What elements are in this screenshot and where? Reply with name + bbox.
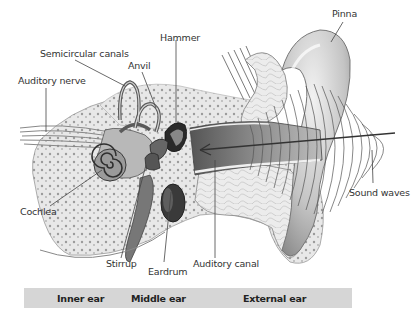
label-sound-waves: Sound waves <box>349 187 410 198</box>
label-auditory-nerve: Auditory nerve <box>18 75 86 86</box>
label-cochlea: Cochlea <box>20 206 57 217</box>
region-middle-ear: Middle ear <box>131 293 186 304</box>
region-inner-ear: Inner ear <box>57 293 104 304</box>
label-auditory-canal: Auditory canal <box>193 258 259 269</box>
label-pinna: Pinna <box>332 8 357 19</box>
ear-diagram: Pinna Hammer Semicircular canals Anvil A… <box>0 0 412 320</box>
region-external-ear: External ear <box>243 293 306 304</box>
label-semicircular-canals: Semicircular canals <box>40 48 129 59</box>
label-anvil: Anvil <box>128 60 150 71</box>
label-eardrum: Eardrum <box>148 266 187 277</box>
label-hammer: Hammer <box>160 32 200 43</box>
label-stirrup: Stirrup <box>106 258 137 269</box>
